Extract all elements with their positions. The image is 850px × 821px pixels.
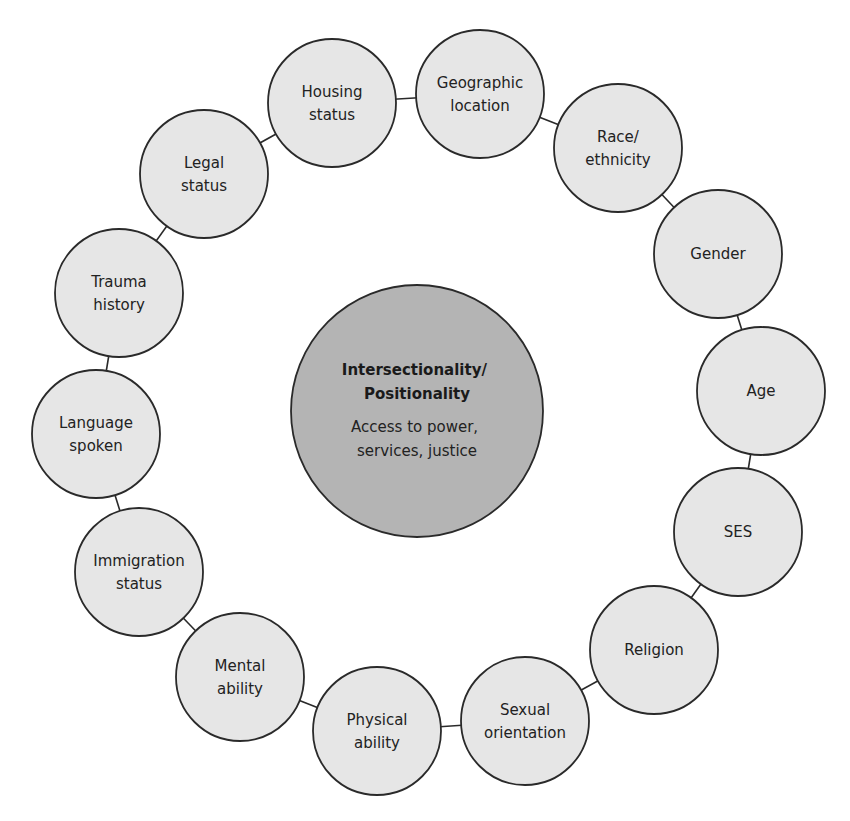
node-race-ethnicity: Race/ethnicity bbox=[554, 84, 682, 212]
node-label-line: location bbox=[450, 97, 510, 115]
node-label-line: status bbox=[181, 177, 227, 195]
node-label-line: Age bbox=[746, 382, 775, 400]
node-label-line: Physical bbox=[346, 711, 407, 729]
node-label-line: Immigration bbox=[93, 552, 184, 570]
node-circle bbox=[461, 657, 589, 785]
node-label-line: Mental bbox=[215, 657, 266, 675]
node-circle bbox=[32, 370, 160, 498]
intersectionality-diagram: HousingstatusGeographiclocationRace/ethn… bbox=[0, 0, 850, 821]
center-subtitle-line-2: services, justice bbox=[357, 442, 477, 460]
node-mental-ability: Mentalability bbox=[176, 613, 304, 741]
node-housing-status: Housingstatus bbox=[268, 39, 396, 167]
node-label: Gender bbox=[690, 245, 746, 263]
node-label-line: Legal bbox=[184, 154, 224, 172]
node-label-line: orientation bbox=[484, 724, 566, 742]
node-label-line: Religion bbox=[624, 641, 684, 659]
node-label-line: status bbox=[309, 106, 355, 124]
node-label-line: Gender bbox=[690, 245, 746, 263]
node-language-spoken: Languagespoken bbox=[32, 370, 160, 498]
node-legal-status: Legalstatus bbox=[140, 110, 268, 238]
node-ses: SES bbox=[674, 468, 802, 596]
node-label-line: Sexual bbox=[500, 701, 550, 719]
node-label-line: Housing bbox=[302, 83, 363, 101]
node-label-line: ability bbox=[217, 680, 263, 698]
node-immigration-status: Immigrationstatus bbox=[75, 508, 203, 636]
node-label-line: Trauma bbox=[90, 273, 147, 291]
node-label: Religion bbox=[624, 641, 684, 659]
center-subtitle-line-1: Access to power, bbox=[351, 418, 478, 436]
node-label-line: status bbox=[116, 575, 162, 593]
node-label-line: SES bbox=[724, 523, 753, 541]
node-age: Age bbox=[697, 327, 825, 455]
center-title-line-1: Intersectionality/ bbox=[342, 361, 488, 379]
node-label-line: Race/ bbox=[597, 128, 640, 146]
node-label-line: Language bbox=[59, 414, 133, 432]
node-circle bbox=[554, 84, 682, 212]
node-label: SES bbox=[724, 523, 753, 541]
center-title-line-2: Positionality bbox=[364, 385, 470, 403]
center-circle bbox=[291, 285, 543, 537]
node-label-line: ability bbox=[354, 734, 400, 752]
node-circle bbox=[313, 667, 441, 795]
center-hub: Intersectionality/ Positionality Access … bbox=[291, 285, 543, 537]
node-religion: Religion bbox=[590, 586, 718, 714]
node-sexual-orientation: Sexualorientation bbox=[461, 657, 589, 785]
node-physical-ability: Physicalability bbox=[313, 667, 441, 795]
node-circle bbox=[55, 229, 183, 357]
node-geographic-location: Geographiclocation bbox=[416, 30, 544, 158]
node-circle bbox=[75, 508, 203, 636]
node-circle bbox=[416, 30, 544, 158]
node-label: Age bbox=[746, 382, 775, 400]
node-gender: Gender bbox=[654, 190, 782, 318]
node-circle bbox=[176, 613, 304, 741]
node-label-line: history bbox=[93, 296, 145, 314]
node-label-line: ethnicity bbox=[585, 151, 651, 169]
node-trauma-history: Traumahistory bbox=[55, 229, 183, 357]
node-circle bbox=[268, 39, 396, 167]
node-label-line: Geographic bbox=[437, 74, 523, 92]
node-label-line: spoken bbox=[69, 437, 122, 455]
node-circle bbox=[140, 110, 268, 238]
